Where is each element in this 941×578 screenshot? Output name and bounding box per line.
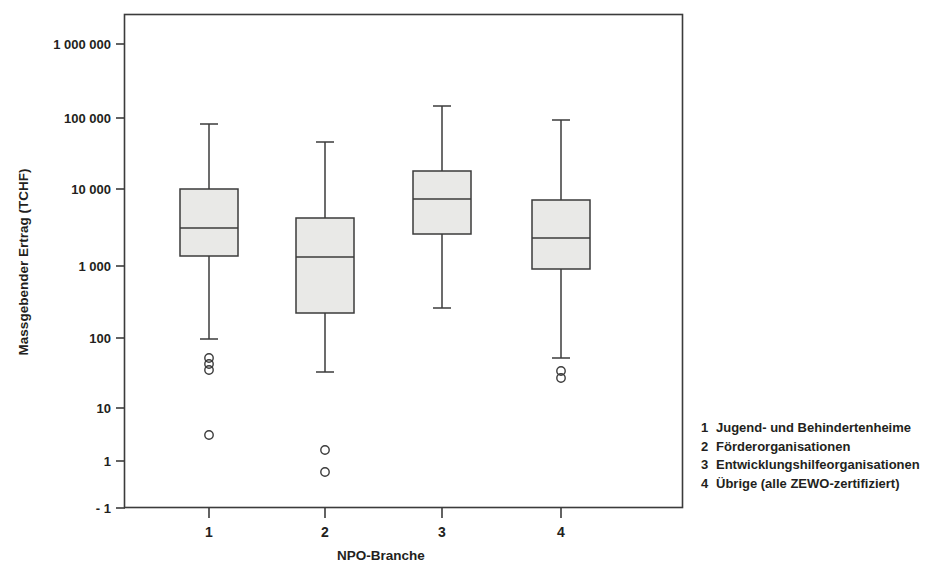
legend-number: 2	[701, 439, 708, 454]
legend-number: 4	[701, 476, 709, 491]
y-tick-label: 1 000 000	[53, 37, 111, 52]
legend-label: Entwicklungshilfeorganisationen	[716, 457, 920, 472]
x-axis-title: NPO-Branche	[337, 548, 425, 563]
box-rect	[296, 218, 354, 313]
legend-label: Jugend- und Behindertenheime	[716, 420, 911, 435]
y-tick-label: 1	[104, 454, 111, 469]
y-axis-title: Massgebender Ertrag (TCHF)	[16, 169, 31, 356]
x-tick-label: 2	[321, 524, 329, 540]
legend: 1Jugend- und Behindertenheime2Förderorga…	[701, 420, 920, 491]
legend-label: Übrige (alle ZEWO-zertifiziert)	[716, 476, 899, 491]
x-tick-label: 4	[557, 524, 565, 540]
y-tick-label: 10	[97, 401, 111, 416]
legend-number: 3	[701, 457, 708, 472]
y-tick-label: - 1	[96, 501, 111, 516]
x-tick-label: 1	[205, 524, 213, 540]
box-rect	[413, 171, 471, 234]
y-tick-label: 10 000	[71, 182, 111, 197]
y-tick-label: 100	[89, 331, 111, 346]
x-tick-label: 3	[438, 524, 446, 540]
boxplot-svg: 1 000 000100 00010 0001 000100101- 1 123…	[0, 0, 941, 578]
y-axis-ticks: 1 000 000100 00010 0001 000100101- 1	[53, 37, 125, 516]
box-rect	[532, 200, 590, 269]
boxplot-figure: 1 000 000100 00010 0001 000100101- 1 123…	[0, 0, 941, 578]
box-rect	[180, 189, 238, 256]
plot-frame	[125, 15, 683, 508]
legend-label: Förderorganisationen	[716, 439, 850, 454]
y-tick-label: 1 000	[78, 259, 111, 274]
x-axis-ticks: 1234	[205, 508, 565, 540]
legend-number: 1	[701, 420, 708, 435]
y-tick-label: 100 000	[64, 111, 111, 126]
